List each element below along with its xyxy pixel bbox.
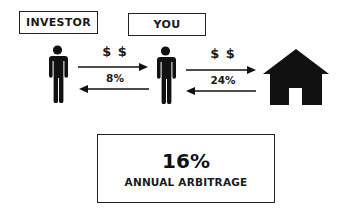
flow-investor-you-money-label: $ $ <box>95 44 135 59</box>
flow-you-property-money-label: $ $ <box>203 46 243 61</box>
investor-label: INVESTOR <box>26 16 91 29</box>
flow-investor-you-rate-label: 8% <box>100 72 130 84</box>
investor-label-box: INVESTOR <box>19 11 98 34</box>
you-label-box: YOU <box>128 13 206 36</box>
result-box: 16% ANNUAL ARBITRAGE <box>97 134 275 203</box>
arrow-right-icon <box>78 62 148 72</box>
flow-you-property-rate-label: 24% <box>205 74 241 86</box>
arrow-left-icon <box>186 86 256 96</box>
result-value: 16% <box>162 150 210 172</box>
you-person-icon <box>153 46 178 104</box>
house-icon <box>262 48 330 106</box>
investor-person-icon <box>45 45 70 103</box>
you-label: YOU <box>154 18 181 31</box>
arrow-left-icon <box>79 84 149 94</box>
result-label: ANNUAL ARBITRAGE <box>125 176 248 188</box>
